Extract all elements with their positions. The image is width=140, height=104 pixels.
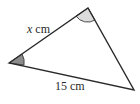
unit-cm: cm bbox=[32, 22, 50, 36]
side-label-x: x cm bbox=[26, 22, 51, 36]
side-label-15cm: 15 cm bbox=[55, 79, 85, 93]
triangle-diagram: x cm 15 cm bbox=[0, 0, 140, 104]
triangle bbox=[9, 8, 134, 90]
